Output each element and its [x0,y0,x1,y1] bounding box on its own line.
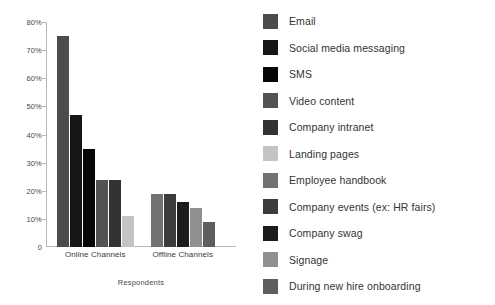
legend-item-label: SMS [289,68,312,80]
legend-swatch-icon [263,173,278,188]
chart-legend: EmailSocial media messagingSMSVideo cont… [263,8,495,300]
y-axis-tick-label: 20% [4,186,42,195]
legend-item-label: During new hire onboarding [289,280,421,292]
legend-item[interactable]: Signage [263,247,495,274]
legend-item-label: Email [289,15,316,27]
plot-area: 010%20%30%40%50%60%70%80% [46,22,236,247]
legend-item-label: Company events (ex: HR fairs) [289,201,435,213]
legend-item[interactable]: Video content [263,88,495,115]
chart-screenshot: 010%20%30%40%50%60%70%80% Online Channel… [0,0,495,305]
bar [177,202,189,247]
x-axis-title: Respondents [46,278,236,287]
y-axis-tick-label: 10% [4,214,42,223]
bar [96,180,108,248]
bar [164,194,176,247]
y-axis-tick-label: 70% [4,46,42,55]
y-axis-tick-label: 30% [4,158,42,167]
legend-item-label: Social media messaging [289,42,405,54]
legend-swatch-icon [263,93,278,108]
legend-item[interactable]: SMS [263,61,495,88]
bar [151,194,163,247]
legend-swatch-icon [263,14,278,29]
y-axis-tick-label: 0 [4,243,42,252]
legend-item-label: Company swag [289,227,363,239]
legend-swatch-icon [263,279,278,294]
bar-chart: 010%20%30%40%50%60%70%80% Online Channel… [0,0,255,305]
legend-swatch-icon [263,40,278,55]
bar [57,36,69,247]
legend-swatch-icon [263,120,278,135]
y-axis-tick-label: 40% [4,130,42,139]
legend-swatch-icon [263,226,278,241]
x-axis-group-label: Online Channels [65,250,126,259]
legend-item-label: Employee handbook [289,174,386,186]
y-axis-tick-label: 60% [4,74,42,83]
legend-swatch-icon [263,252,278,267]
bars-layer [46,22,236,247]
legend-item[interactable]: Company swag [263,220,495,247]
y-axis-tick-label: 80% [4,18,42,27]
legend-item[interactable]: Employee handbook [263,167,495,194]
legend-swatch-icon [263,67,278,82]
bar [190,208,202,247]
legend-item[interactable]: During new hire onboarding [263,273,495,300]
legend-item[interactable]: Company intranet [263,114,495,141]
legend-item-label: Signage [289,254,328,266]
y-axis-tick-label: 50% [4,102,42,111]
legend-swatch-icon [263,146,278,161]
bar [203,222,215,247]
bar [83,149,95,247]
legend-item[interactable]: Email [263,8,495,35]
bar [109,180,121,248]
legend-item-label: Landing pages [289,148,359,160]
bar [122,216,134,247]
legend-swatch-icon [263,199,278,214]
bar [70,115,82,247]
legend-item[interactable]: Social media messaging [263,35,495,62]
x-axis-group-label: Offline Channels [152,250,213,259]
legend-item[interactable]: Landing pages [263,141,495,168]
legend-item-label: Video content [289,95,354,107]
legend-item-label: Company intranet [289,121,373,133]
legend-item[interactable]: Company events (ex: HR fairs) [263,194,495,221]
